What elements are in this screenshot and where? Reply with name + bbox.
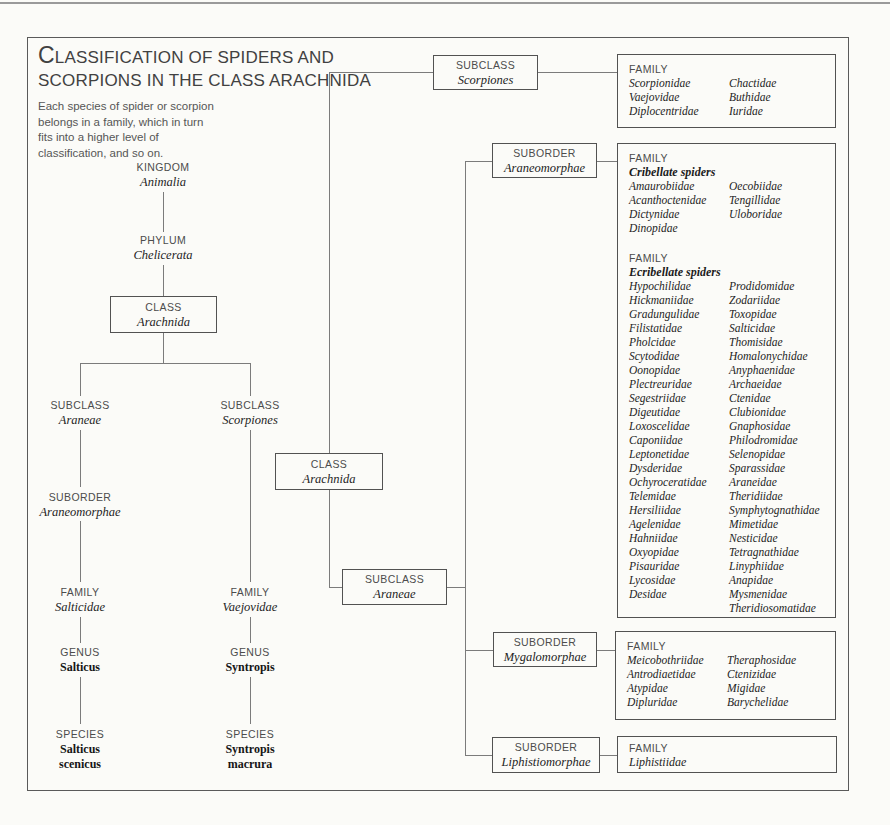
- family-box-araneomorphae: FAMILY Cribellate spiders AmaurobiidaeAc…: [617, 143, 836, 618]
- taxon-name: Salticus: [56, 742, 104, 757]
- connector-line: [447, 587, 465, 588]
- taxon-name: Araneae: [50, 413, 109, 428]
- family-item: Anyphaenidae: [729, 363, 820, 377]
- family-item: Symphytognathidae: [729, 503, 820, 517]
- family-columns: AmaurobiidaeAcanthoctenidaeDictynidaeDin…: [629, 179, 831, 235]
- family-item: Prodidomidae: [729, 279, 820, 293]
- family-item: Pisauridae: [629, 559, 729, 573]
- title-line-2: SCORPIONS IN THE CLASS ARACHNIDA: [38, 69, 371, 92]
- family-item: Hypochilidae: [629, 279, 729, 293]
- connector-line: [465, 161, 492, 162]
- family-item: Gradungulidae: [629, 307, 729, 321]
- connector-line: [250, 677, 251, 724]
- family-item: Nesticidae: [729, 531, 820, 545]
- taxon-name: Syntropis: [225, 660, 274, 675]
- family-item: Vaejovidae: [629, 90, 729, 104]
- family-item: Ochyroceratidae: [629, 475, 729, 489]
- intro-line: classification, and so on.: [38, 146, 214, 162]
- taxon-name: Animalia: [137, 175, 190, 190]
- family-item: Oonopidae: [629, 363, 729, 377]
- family-item: Theridiosomatidae: [729, 601, 820, 615]
- taxon-name: Liphistiidae: [629, 755, 832, 769]
- taxon-name: Chelicerata: [133, 248, 192, 263]
- level-label: KINGDOM: [137, 160, 190, 175]
- family-item: Thomisidae: [729, 335, 820, 349]
- level-label: GENUS: [60, 645, 100, 660]
- family-item: Hickmaniidae: [629, 293, 729, 307]
- family-box-mygalomorphae: FAMILY MeicobothriidaeAntrodiaetidaeAtyp…: [615, 631, 836, 720]
- connector-line: [465, 161, 466, 756]
- connector-line: [250, 617, 251, 643]
- family-item: Mysmenidae: [729, 587, 820, 601]
- family-column-1: ScorpionidaeVaejovidaeDiplocentridae: [629, 76, 729, 118]
- taxon-name: Araneae: [373, 587, 415, 602]
- family-item: Leptonetidae: [629, 447, 729, 461]
- suborder-araneomorphae-box: SUBORDER Araneomorphae: [492, 143, 597, 178]
- subclass-araneae-box: SUBCLASS Araneae: [342, 569, 447, 605]
- family-item: Tetragnathidae: [729, 545, 820, 559]
- suborder-liphistiomorphae-box: SUBORDER Liphistiomorphae: [492, 737, 600, 773]
- family-item: Dinopidae: [629, 221, 729, 235]
- family-column-2: OecobiidaeTengillidaeUloboridae: [729, 179, 782, 235]
- family-item: Homalonychidae: [729, 349, 820, 363]
- family-item: Araneidae: [729, 475, 820, 489]
- family-item: Buthidae: [729, 90, 776, 104]
- connector-line: [80, 521, 81, 582]
- level-label: SUBORDER: [515, 740, 578, 755]
- family-box-scorpiones: FAMILY ScorpionidaeVaejovidaeDiplocentri…: [617, 54, 836, 128]
- family-heading: FAMILY: [629, 741, 832, 755]
- family-heading: FAMILY: [627, 639, 831, 653]
- scan-edge-line: [0, 2, 890, 4]
- level-label: SUBORDER: [513, 146, 576, 161]
- family-heading: FAMILY: [629, 251, 831, 265]
- family-item: Toxopidae: [729, 307, 820, 321]
- family-item: Meicobothriidae: [627, 653, 727, 667]
- family-item: Agelenidae: [629, 517, 729, 531]
- diagram-page: CLASSIFICATION OF SPIDERS AND SCORPIONS …: [0, 0, 890, 825]
- taxon-name: Syntropis: [225, 742, 274, 757]
- node-subclass-scorpiones-left: SUBCLASS Scorpiones: [220, 398, 279, 428]
- level-label: SUBCLASS: [365, 572, 424, 587]
- family-item: Salticidae: [729, 321, 820, 335]
- taxon-name: Araneomorphae: [39, 505, 120, 520]
- family-item: Dipluridae: [627, 695, 727, 709]
- family-item: Atypidae: [627, 681, 727, 695]
- family-item: Pholcidae: [629, 335, 729, 349]
- family-item: Ctenidae: [729, 391, 820, 405]
- page-title: CLASSIFICATION OF SPIDERS AND SCORPIONS …: [38, 44, 371, 92]
- family-columns: HypochilidaeHickmaniidaeGradungulidaeFil…: [629, 279, 831, 615]
- family-item: Digeutidae: [629, 405, 729, 419]
- level-label: SUBORDER: [514, 635, 577, 650]
- family-item: Anapidae: [729, 573, 820, 587]
- level-label: SPECIES: [225, 727, 274, 742]
- family-item: Selenopidae: [729, 447, 820, 461]
- node-species-right: SPECIES Syntropis macrura: [225, 727, 274, 772]
- family-item: Tengillidae: [729, 193, 782, 207]
- family-item: Theraphosidae: [727, 653, 796, 667]
- connector-line: [329, 490, 330, 587]
- family-item: Desidae: [629, 587, 729, 601]
- intro-paragraph: Each species of spider or scorpion belon…: [38, 99, 214, 161]
- taxon-name: Liphistiomorphae: [502, 755, 591, 770]
- family-column-1: MeicobothriidaeAntrodiaetidaeAtypidaeDip…: [627, 653, 727, 709]
- family-item: Scytodidae: [629, 349, 729, 363]
- family-item: Barychelidae: [727, 695, 796, 709]
- connector-line: [465, 755, 492, 756]
- family-item: Hahniidae: [629, 531, 729, 545]
- family-item: Caponiidae: [629, 433, 729, 447]
- family-item: Diplocentridae: [629, 104, 729, 118]
- family-item: Hersiliidae: [629, 503, 729, 517]
- family-item: Archaeidae: [729, 377, 820, 391]
- family-item: Iuridae: [729, 104, 776, 118]
- family-item: Mimetidae: [729, 517, 820, 531]
- connector-line: [80, 363, 250, 364]
- family-item: Segestriidae: [629, 391, 729, 405]
- connector-line: [80, 677, 81, 724]
- family-heading: FAMILY: [629, 151, 831, 165]
- suborder-mygalomorphae-box: SUBORDER Mygalomorphae: [493, 632, 597, 667]
- title-initial: C: [38, 42, 55, 68]
- intro-line: fits into a higher level of: [38, 130, 214, 146]
- taxon-name: Arachnida: [303, 472, 356, 487]
- level-label: CLASS: [145, 300, 181, 315]
- level-label: CLASS: [311, 457, 347, 472]
